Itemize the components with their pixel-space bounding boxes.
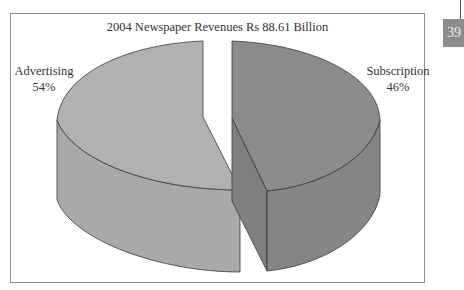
label-subscription: Subscription 46% [364, 63, 432, 95]
label-advertising: Advertising 54% [14, 63, 74, 95]
slice-advertising [57, 41, 240, 272]
label-subscription-pct: 46% [364, 79, 432, 95]
page-tab-line [460, 0, 461, 20]
label-subscription-name: Subscription [364, 63, 432, 79]
label-advertising-name: Advertising [14, 63, 74, 79]
pie-chart [0, 0, 464, 290]
label-advertising-pct: 54% [14, 79, 74, 95]
slice-subscription [232, 41, 380, 271]
page-number-tab: 39 [443, 19, 464, 47]
